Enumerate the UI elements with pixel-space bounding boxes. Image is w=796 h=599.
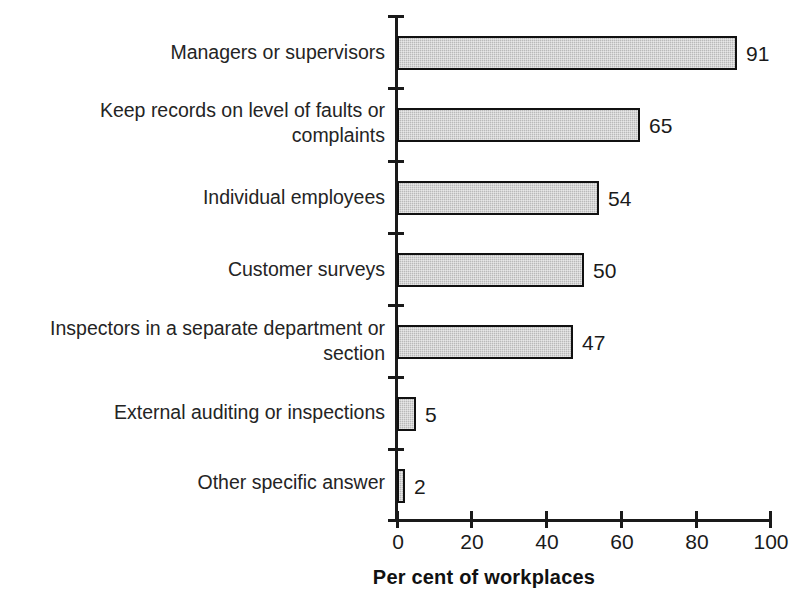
x-axis-tick-label-20: 20 — [460, 530, 483, 554]
plot-area: Managers or supervisors Keep records on … — [0, 0, 796, 599]
y-axis-tick — [388, 232, 404, 235]
bar-keep-records — [397, 108, 640, 142]
category-label-individual-employees: Individual employees — [203, 185, 385, 210]
bar-value-individual-employees: 54 — [608, 187, 631, 211]
x-axis-tick-80 — [695, 511, 698, 528]
x-axis-tick-label-40: 40 — [535, 530, 558, 554]
bar-inspectors-separate-department — [397, 325, 573, 359]
bar-value-external-auditing: 5 — [425, 403, 437, 427]
category-label-managers-or-supervisors: Managers or supervisors — [170, 40, 385, 65]
bar-external-auditing — [397, 397, 416, 431]
bar-chart: Managers or supervisors Keep records on … — [0, 0, 796, 599]
bar-value-customer-surveys: 50 — [593, 259, 616, 283]
bar-value-managers-or-supervisors: 91 — [746, 42, 769, 66]
x-axis-line — [395, 519, 772, 522]
bar-customer-surveys — [397, 253, 584, 287]
x-axis-tick-60 — [620, 511, 623, 528]
bar-value-other-specific-answer: 2 — [414, 475, 426, 499]
x-axis-tick-label-60: 60 — [610, 530, 633, 554]
category-label-external-auditing: External auditing or inspections — [114, 400, 385, 425]
y-axis-tick — [388, 15, 404, 18]
category-label-other-specific-answer: Other specific answer — [198, 470, 386, 495]
bar-value-keep-records: 65 — [649, 114, 672, 138]
x-axis-tick-20 — [470, 511, 473, 528]
y-axis-tick — [388, 87, 404, 90]
bar-other-specific-answer — [397, 469, 405, 503]
y-axis-tick — [388, 304, 404, 307]
category-label-customer-surveys: Customer surveys — [228, 257, 385, 282]
bar-managers-or-supervisors — [397, 36, 737, 70]
y-axis-tick — [388, 448, 404, 451]
category-label-keep-records: Keep records on level of faults or compl… — [100, 98, 385, 148]
bar-individual-employees — [397, 181, 599, 215]
x-axis-tick-40 — [545, 511, 548, 528]
bar-value-inspectors-separate-department: 47 — [582, 331, 605, 355]
category-label-inspectors-separate-department: Inspectors in a separate department or s… — [50, 316, 385, 366]
x-axis-tick-label-100: 100 — [753, 530, 788, 554]
y-axis-tick — [388, 160, 404, 163]
x-axis-tick-100 — [769, 511, 772, 528]
x-axis-title-text: Per cent of workplaces — [373, 566, 595, 589]
x-axis-tick-label-80: 80 — [685, 530, 708, 554]
x-axis-tick-label-0: 0 — [392, 530, 404, 554]
y-axis-tick — [388, 376, 404, 379]
x-axis-title: Per cent of workplaces — [0, 566, 796, 589]
x-axis-tick-0 — [396, 511, 399, 528]
